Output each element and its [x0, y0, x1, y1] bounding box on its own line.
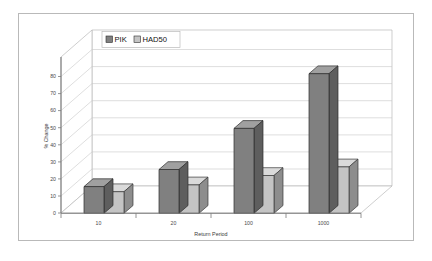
- chart-figure: 0 10 20 30 40 50 60 70 80 % Change: [0, 0, 432, 261]
- legend-swatch-pik: [106, 36, 113, 43]
- bar-PIK-10: [84, 179, 113, 214]
- legend-label-pik: PIK: [115, 35, 127, 44]
- bar-PIK-20: [159, 162, 188, 214]
- chart-plot-area: 0 10 20 30 40 50 60 70 80 % Change: [0, 0, 432, 261]
- x-axis-title: Return Period: [194, 231, 227, 237]
- y-tick-label-70: 70: [50, 90, 56, 96]
- bar-PIK-1000: [309, 66, 338, 213]
- x-tick-label-100: 100: [244, 220, 253, 226]
- y-axis-title: % Change: [43, 123, 49, 148]
- y-tick-label-50: 50: [50, 125, 56, 131]
- x-tick-label-10: 10: [96, 220, 102, 226]
- y-tick-label-80: 80: [50, 73, 56, 79]
- legend-swatch-had50: [134, 36, 141, 43]
- y-tick-label-10: 10: [50, 193, 56, 199]
- y-tick-label-60: 60: [50, 107, 56, 113]
- y-tick-label-0: 0: [53, 210, 56, 216]
- y-tick-label-40: 40: [50, 142, 56, 148]
- x-axis-ticks: [61, 213, 361, 218]
- x-tick-label-20: 20: [171, 220, 177, 226]
- bar-PIK-100: [234, 121, 263, 214]
- y-tick-label-20: 20: [50, 176, 56, 182]
- bar-group-10: [84, 179, 133, 214]
- legend-label-had50: HAD50: [143, 35, 167, 44]
- y-tick-label-30: 30: [50, 159, 56, 165]
- x-tick-label-1000: 1000: [318, 220, 330, 226]
- chart-legend[interactable]: PIK HAD50: [102, 32, 180, 48]
